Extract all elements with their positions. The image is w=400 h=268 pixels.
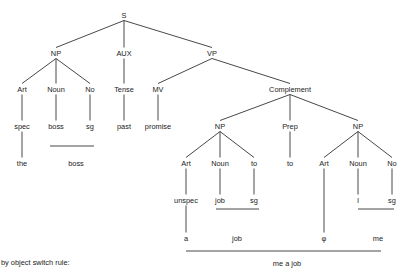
- tree-edge: [158, 59, 212, 84]
- tree-edge: [124, 21, 212, 48]
- tree-node-art2: Art: [181, 159, 190, 168]
- tree-node-i: I: [357, 196, 359, 205]
- tree-node-to2: to: [287, 159, 293, 168]
- tree-node-boss1: boss: [48, 122, 64, 131]
- tree-node-sg2: sg: [250, 196, 258, 205]
- tree-node-vp: VP: [207, 49, 217, 58]
- tree-node-promise: promise: [145, 122, 171, 131]
- tree-node-spec: spec: [14, 122, 30, 131]
- tree-node-np1: NP: [51, 49, 61, 58]
- tree-edge: [220, 95, 290, 121]
- tree-edge: [220, 132, 254, 158]
- tree-node-a: a: [184, 234, 188, 243]
- tree-node-the: the: [17, 159, 27, 168]
- tree-edge: [186, 132, 220, 158]
- tree-node-noun1: Noun: [47, 85, 65, 94]
- tree-edge: [56, 59, 90, 84]
- tree-edge: [22, 59, 56, 84]
- tree-node-np3: NP: [353, 122, 363, 131]
- tree-node-complement: Complement: [269, 85, 311, 94]
- tree-node-phi: φ: [322, 234, 327, 243]
- tree-node-past: past: [117, 122, 131, 131]
- tree-node-noun3: Noun: [349, 159, 367, 168]
- tree-node-sg1: sg: [86, 122, 94, 131]
- tree-node-prep: Prep: [282, 122, 298, 131]
- tree-edge: [324, 132, 358, 158]
- tree-node-sg3: sg: [388, 196, 396, 205]
- tree-node-mejob: me a job: [273, 259, 301, 268]
- tree-node-s: S: [122, 11, 127, 20]
- tree-node-to1: to: [251, 159, 257, 168]
- tree-node-boss2: boss: [68, 159, 84, 168]
- tree-edge: [56, 21, 124, 48]
- tree-node-art3: Art: [319, 159, 328, 168]
- tree-node-job1: job: [215, 196, 225, 205]
- caption-object-switch-rule: by object switch rule:: [1, 258, 70, 267]
- tree-node-noun2: Noun: [211, 159, 229, 168]
- tree-edge: [290, 95, 358, 121]
- tree-node-np2: NP: [215, 122, 225, 131]
- tree-node-art1: Art: [17, 85, 26, 94]
- tree-node-no3: No: [387, 159, 396, 168]
- tree-node-aux: AUX: [116, 49, 131, 58]
- tree-node-no1: No: [85, 85, 94, 94]
- tree-edge: [358, 132, 392, 158]
- tree-node-me: me: [373, 234, 383, 243]
- tree-node-tense: Tense: [114, 85, 134, 94]
- tree-node-job2: job: [232, 234, 242, 243]
- tree-node-mv: MV: [152, 85, 163, 94]
- tree-node-unspec: unspec: [174, 196, 198, 205]
- tree-edge: [212, 59, 290, 84]
